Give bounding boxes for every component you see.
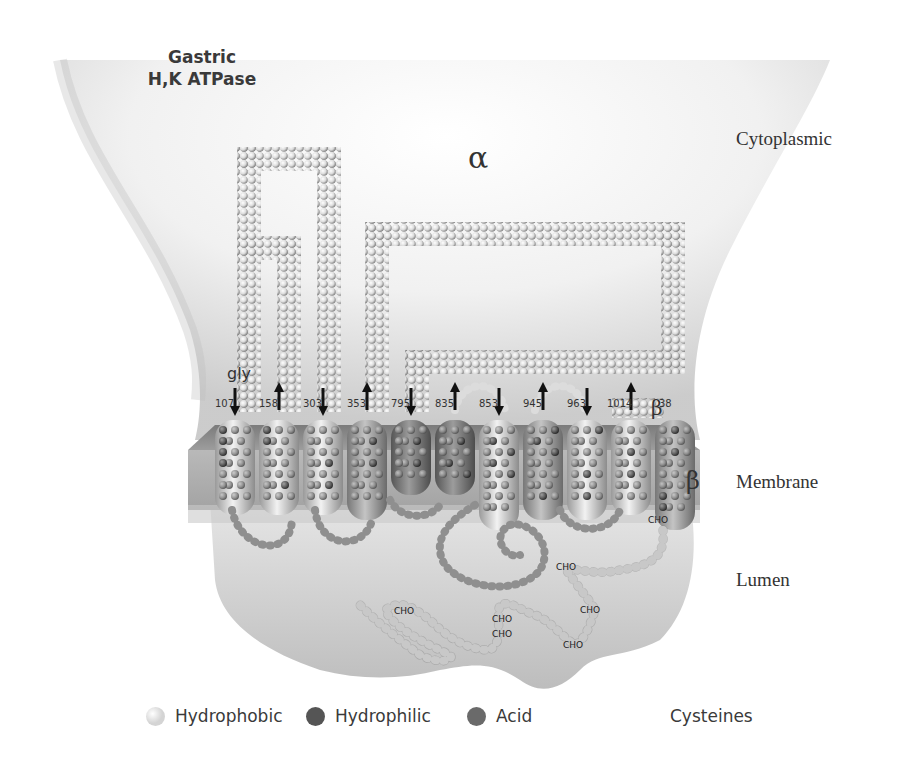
hydrophobic-dot-icon — [146, 707, 165, 726]
label-beta-subunit-side: β — [686, 467, 700, 495]
cho-label: CHO — [648, 515, 668, 525]
legend-item-acid: Acid — [467, 706, 532, 726]
cytoplasmic-region-shape — [60, 60, 830, 440]
segment-number: 945 — [523, 398, 542, 409]
segment-number: 963 — [567, 398, 586, 409]
cho-label: CHO — [492, 614, 512, 624]
segment-number: 107 — [215, 398, 234, 409]
legend-label: Hydrophilic — [335, 706, 431, 726]
hydrophilic-dot-icon — [306, 707, 325, 726]
title-line-2: H,K ATPase — [132, 68, 272, 90]
legend-label: Acid — [496, 706, 532, 726]
segment-number: 1014 — [607, 398, 632, 409]
segment-number: 795 — [391, 398, 410, 409]
helix-cylinder — [611, 420, 651, 515]
helix-cylinder — [215, 420, 255, 515]
legend-item-cysteines: Cysteines — [670, 706, 753, 726]
cho-label: CHO — [556, 562, 576, 572]
diagram-title: Gastric H,K ATPase — [132, 46, 272, 90]
legend-item-hydrophobic: Hydrophobic — [146, 706, 282, 726]
helix-cylinder — [259, 420, 299, 515]
legend-item-hydrophilic: Hydrophilic — [306, 706, 431, 726]
legend-label: Hydrophobic — [175, 706, 282, 726]
segment-number: 303 — [303, 398, 322, 409]
helix-cylinder — [303, 420, 343, 515]
segment-number: 353 — [347, 398, 366, 409]
diagram-canvas — [0, 0, 902, 778]
segment-number: 835 — [435, 398, 454, 409]
acid-dot-icon — [467, 707, 486, 726]
cho-label: CHO — [580, 605, 600, 615]
label-membrane: Membrane — [736, 471, 818, 493]
label-gly: gly — [227, 364, 251, 383]
cho-label: CHO — [492, 629, 512, 639]
label-cytoplasmic: Cytoplasmic — [736, 128, 832, 150]
segment-number: 158 — [259, 398, 278, 409]
segment-number: 853 — [479, 398, 498, 409]
label-alpha-subunit: α — [468, 140, 488, 175]
cho-label: CHO — [394, 606, 414, 616]
cho-label: CHO — [563, 640, 583, 650]
segment-number: 38 — [659, 398, 672, 409]
label-lumen: Lumen — [736, 569, 790, 591]
legend: Hydrophobic Hydrophilic Acid Cysteines — [0, 706, 902, 736]
title-line-1: Gastric — [132, 46, 272, 68]
legend-label: Cysteines — [670, 706, 753, 726]
